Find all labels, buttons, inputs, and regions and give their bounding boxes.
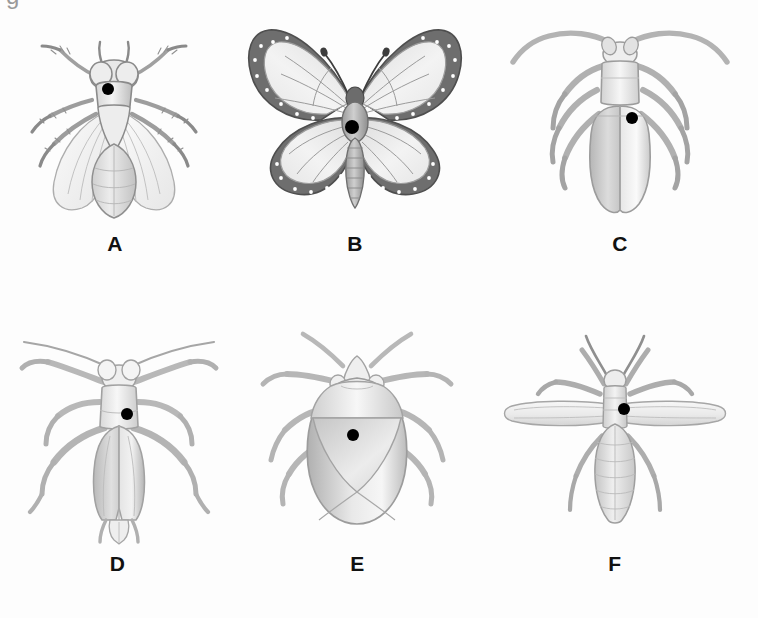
panel-e: E <box>255 330 460 545</box>
black-dot-marker <box>345 120 359 134</box>
black-dot-marker <box>102 83 114 95</box>
panel-label-b: B <box>235 232 475 256</box>
black-dot-marker <box>626 112 638 124</box>
fly-illustration <box>20 18 210 223</box>
panel-label-a: A <box>20 232 210 256</box>
panel-a: A <box>20 18 210 223</box>
stink-bug-illustration <box>255 330 460 545</box>
panel-label-f: F <box>500 552 730 576</box>
black-dot-marker <box>618 403 630 415</box>
panel-label-e: E <box>255 552 460 576</box>
longhorn-beetle-illustration <box>505 18 735 223</box>
panel-d: D <box>10 330 225 545</box>
black-dot-marker <box>347 429 359 441</box>
winged-termite-illustration <box>500 330 730 545</box>
butterfly-illustration <box>235 18 475 223</box>
black-dot-marker <box>121 408 133 420</box>
panel-b: B <box>235 18 475 223</box>
panel-label-d: D <box>10 552 225 576</box>
panel-c: C <box>505 18 735 223</box>
insect-figure: g <box>0 0 758 618</box>
katydid-illustration <box>10 330 225 545</box>
panel-label-c: C <box>505 232 735 256</box>
cropped-caption-glyph: g <box>6 0 19 8</box>
panel-f: F <box>500 330 730 545</box>
